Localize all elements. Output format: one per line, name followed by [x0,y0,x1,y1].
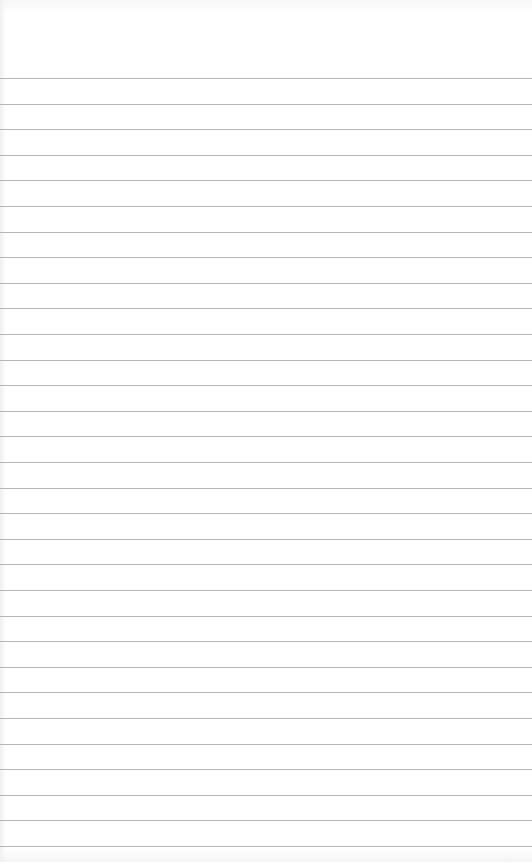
ruled-line [0,385,532,386]
ruled-line [0,436,532,437]
ruled-line [0,513,532,514]
ruled-line [0,744,532,745]
ruled-line [0,308,532,309]
ruled-line [0,360,532,361]
ruled-line [0,667,532,668]
ruled-line [0,155,532,156]
ruled-line [0,78,532,79]
ruled-line [0,257,532,258]
ruled-line [0,462,532,463]
ruled-line [0,564,532,565]
ruled-line [0,206,532,207]
ruled-line [0,795,532,796]
ruled-line [0,641,532,642]
ruled-line [0,129,532,130]
ruled-line [0,232,532,233]
ruled-line [0,488,532,489]
ruled-line [0,334,532,335]
ruled-line [0,769,532,770]
ruled-line [0,590,532,591]
ruled-line [0,180,532,181]
ruled-line [0,411,532,412]
ruled-line [0,539,532,540]
ruled-line [0,692,532,693]
ruled-line [0,846,532,847]
ruled-line [0,283,532,284]
ruled-line [0,616,532,617]
ruled-line [0,718,532,719]
ruled-line [0,104,532,105]
ruled-line [0,820,532,821]
lined-paper [0,0,532,862]
